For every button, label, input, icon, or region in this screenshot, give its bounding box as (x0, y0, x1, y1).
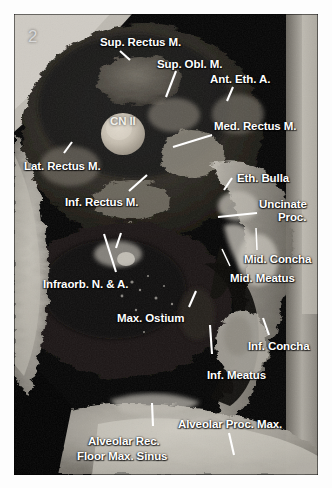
label-floor-max-sinus: Floor Max. Sinus (77, 450, 167, 463)
label-lat-rectus-m: Lat. Rectus M. (24, 160, 101, 173)
label-cn-ii: CN II (110, 115, 136, 128)
label-mid-meatus: Mid. Meatus (230, 272, 295, 285)
label-eth-bulla: Eth. Bulla (237, 172, 289, 185)
label-inf-concha: Inf. Concha (248, 340, 310, 353)
label-med-rectus-m: Med. Rectus M. (214, 120, 296, 133)
anatomical-figure: 2 Sup. Rectus M. Sup. Obl. M. Ant. Eth. … (0, 0, 332, 488)
dissection-photograph (14, 14, 318, 475)
label-sup-rectus-m: Sup. Rectus M. (100, 36, 181, 49)
label-alveolar-proc-max: Alveolar Proc. Max. (178, 418, 282, 431)
figure-number: 2 (28, 27, 37, 47)
label-inf-rectus-m: Inf. Rectus M. (65, 196, 138, 209)
film-grain-overlay (14, 14, 318, 475)
label-infraorb-n-a: Infraorb. N. & A. (43, 278, 128, 291)
label-proc: Proc. (278, 211, 306, 224)
photograph-canvas (14, 14, 318, 475)
label-inf-meatus: Inf. Meatus (207, 369, 266, 382)
label-uncinate: Uncinate (259, 198, 307, 211)
label-sup-obl-m: Sup. Obl. M. (157, 58, 222, 71)
label-alveolar-rec: Alveolar Rec. (88, 435, 160, 448)
label-ant-eth-a: Ant. Eth. A. (210, 73, 270, 86)
label-mid-concha: Mid. Concha (244, 253, 311, 266)
label-max-ostium: Max. Ostium (117, 312, 184, 325)
